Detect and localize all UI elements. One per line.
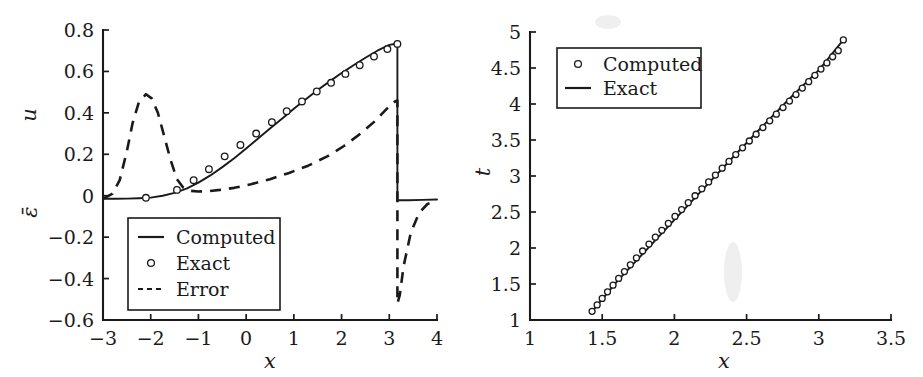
- data-point-marker: [659, 227, 665, 233]
- data-point-marker: [746, 138, 752, 144]
- data-point-marker: [692, 193, 698, 199]
- data-point-marker: [679, 207, 685, 213]
- data-point-marker: [610, 282, 616, 288]
- y-tick-label: 0.6: [64, 60, 94, 82]
- data-point-marker: [652, 234, 658, 240]
- y-tick-label: 3.5: [491, 129, 521, 151]
- data-point-marker: [605, 289, 611, 295]
- right-plot-svg: 11.522.533.5 11.522.533.544.55 x t Compu…: [461, 0, 923, 377]
- left-legend[interactable]: ComputedExactError: [128, 218, 280, 310]
- data-point-marker: [640, 248, 646, 254]
- data-point-marker: [719, 165, 725, 171]
- data-point-marker: [685, 200, 691, 206]
- x-tick-label: 3: [383, 327, 395, 349]
- y-tick-label: 3: [509, 165, 521, 187]
- data-point-marker: [342, 71, 349, 78]
- y-tick-label: −0.4: [48, 268, 94, 290]
- legend-entry-label: Error: [176, 278, 229, 300]
- figure-container: −3−2−101234 −0.6−0.4−0.200.20.40.60.8 x …: [0, 0, 923, 377]
- data-point-marker: [799, 85, 805, 91]
- data-point-marker: [384, 46, 391, 53]
- left-x-tick-labels: −3−2−101234: [89, 327, 443, 349]
- data-point-marker: [206, 166, 213, 173]
- x-tick-label: 3.5: [876, 327, 906, 349]
- left-series-exact: [143, 41, 401, 202]
- x-tick-label: −2: [137, 327, 165, 349]
- data-point-marker: [767, 118, 773, 124]
- data-point-marker: [174, 187, 181, 194]
- left-y-axis-label-epsilon-group: ε̄: [18, 206, 42, 217]
- data-point-marker: [706, 179, 712, 185]
- data-point-marker: [599, 295, 605, 301]
- x-tick-label: 2.5: [731, 327, 761, 349]
- data-point-marker: [760, 125, 766, 131]
- data-point-marker: [733, 152, 739, 158]
- data-point-marker: [627, 262, 633, 268]
- y-tick-label: −0.2: [48, 226, 94, 248]
- data-point-marker: [621, 269, 627, 275]
- data-point-marker: [726, 158, 732, 164]
- legend-entry-label: Computed: [176, 226, 275, 248]
- legend-entry-label: Exact: [603, 77, 658, 99]
- data-point-marker: [143, 194, 150, 201]
- y-tick-label: 0: [82, 185, 94, 207]
- x-tick-label: 0: [240, 327, 252, 349]
- y-tick-label: 0.2: [64, 143, 94, 165]
- legend-entry-label: Exact: [176, 252, 231, 274]
- data-point-marker: [665, 220, 671, 226]
- left-y-axis-label-u: u: [17, 108, 41, 122]
- right-x-axis-label: x: [718, 349, 730, 373]
- data-point-marker: [753, 131, 759, 137]
- y-tick-label: 0.4: [64, 102, 94, 124]
- data-point-marker: [835, 48, 841, 54]
- data-point-marker: [299, 98, 306, 105]
- data-point-marker: [633, 255, 639, 261]
- data-point-marker: [699, 186, 705, 192]
- right-plot-panel: 11.522.533.5 11.522.533.544.55 x t Compu…: [461, 0, 923, 377]
- left-x-axis-label: x: [264, 349, 276, 373]
- data-point-marker: [712, 172, 718, 178]
- y-tick-label: 1: [509, 309, 521, 331]
- x-tick-label: 2: [336, 327, 348, 349]
- y-tick-label: 2: [509, 237, 521, 259]
- left-plot-panel: −3−2−101234 −0.6−0.4−0.200.20.40.60.8 x …: [0, 0, 462, 377]
- data-point-marker: [824, 60, 830, 66]
- data-point-marker: [190, 177, 197, 184]
- left-plot-svg: −3−2−101234 −0.6−0.4−0.200.20.40.60.8 x …: [0, 0, 462, 377]
- data-point-marker: [740, 145, 746, 151]
- x-tick-label: 1: [288, 327, 300, 349]
- y-tick-label: 2.5: [491, 201, 521, 223]
- x-tick-label: 1: [524, 327, 536, 349]
- data-point-marker: [773, 111, 779, 117]
- data-point-marker: [237, 142, 244, 149]
- data-point-marker: [812, 72, 818, 78]
- data-point-marker: [283, 108, 290, 115]
- x-tick-label: 1.5: [587, 327, 617, 349]
- right-legend[interactable]: ComputedExact: [557, 48, 702, 108]
- right-x-tick-labels: 11.522.533.5: [524, 327, 906, 349]
- x-tick-label: 2: [668, 327, 680, 349]
- data-point-marker: [830, 54, 836, 60]
- data-point-marker: [840, 37, 846, 43]
- data-point-marker: [313, 88, 320, 95]
- data-point-marker: [818, 66, 824, 72]
- data-point-marker: [253, 130, 260, 137]
- legend-entry-label: Computed: [603, 53, 702, 75]
- x-tick-label: −1: [184, 327, 212, 349]
- data-point-marker: [356, 62, 363, 69]
- data-point-marker: [793, 92, 799, 98]
- data-point-marker: [328, 80, 335, 87]
- data-point-marker: [589, 308, 595, 314]
- x-tick-label: 3: [813, 327, 825, 349]
- y-tick-label: 1.5: [491, 273, 521, 295]
- y-tick-label: 4.5: [491, 57, 521, 79]
- data-point-marker: [371, 53, 378, 60]
- data-point-marker: [786, 98, 792, 104]
- y-tick-label: 4: [509, 93, 521, 115]
- right-y-tick-labels: 11.522.533.544.55: [491, 21, 521, 331]
- data-point-marker: [672, 213, 678, 219]
- data-point-marker: [646, 241, 652, 247]
- x-tick-label: 4: [431, 327, 443, 349]
- data-point-marker: [806, 79, 812, 85]
- right-y-axis-label: t: [471, 167, 495, 176]
